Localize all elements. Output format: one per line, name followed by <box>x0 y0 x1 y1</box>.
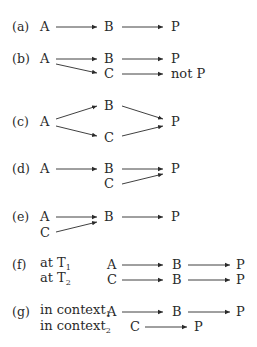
arrows-layer <box>0 0 257 347</box>
row-label-c: (c) <box>12 115 29 129</box>
node-b: B <box>172 273 182 287</box>
node-a: A <box>107 305 116 319</box>
row-label-g: (g) <box>12 305 30 319</box>
node-c: C <box>107 273 117 287</box>
row-label-e: (e) <box>12 210 29 224</box>
row-label-f: (f) <box>12 258 26 272</box>
node-p: P <box>171 52 180 66</box>
node-a: A <box>40 52 49 66</box>
node-p: P <box>171 210 180 224</box>
node-b: B <box>172 258 182 272</box>
row-label-a: (a) <box>12 20 29 34</box>
node-b: B <box>104 99 114 113</box>
node-a: A <box>40 210 49 224</box>
node-p: P <box>194 320 203 334</box>
node-c: C <box>104 131 114 145</box>
node-p: P <box>171 115 180 129</box>
time-label-2: at T2 <box>40 271 71 290</box>
node-p: P <box>236 273 245 287</box>
context-label-2: in context2 <box>40 319 111 338</box>
node-not-p: not P <box>171 67 205 81</box>
node-b: B <box>104 210 114 224</box>
node-c: C <box>40 226 50 240</box>
node-p: P <box>236 305 245 319</box>
row-label-b: (b) <box>12 52 30 66</box>
node-b: B <box>104 20 114 34</box>
node-a: A <box>40 115 49 129</box>
row-label-d: (d) <box>12 162 30 176</box>
node-c: C <box>104 67 114 81</box>
node-b: B <box>104 52 114 66</box>
node-c: C <box>130 320 140 334</box>
node-p: P <box>171 162 180 176</box>
node-a: A <box>40 162 49 176</box>
node-b: B <box>104 162 114 176</box>
causal-diagram-figure: (a) A B P (b) A B P C not P (c) A B C P … <box>0 0 257 347</box>
node-p: P <box>236 258 245 272</box>
node-p: P <box>171 20 180 34</box>
node-a: A <box>40 20 49 34</box>
node-c: C <box>104 177 114 191</box>
node-a: A <box>107 258 116 272</box>
node-b: B <box>172 305 182 319</box>
